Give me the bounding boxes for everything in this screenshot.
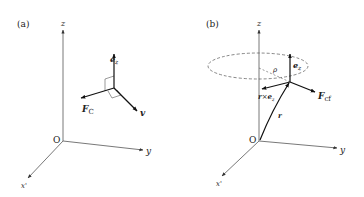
z-axis-label: z <box>256 19 262 28</box>
z-axis-label: z <box>60 19 66 28</box>
rho-label: ρ <box>272 66 278 74</box>
panel-b: (b) z y x' O ρ r ez Fcf r×ez <box>206 19 346 188</box>
fc-label: FC <box>81 104 94 116</box>
ez-label: ez <box>110 54 119 65</box>
right-angle-mark-fc-v <box>108 90 121 98</box>
x-axis <box>28 141 63 178</box>
y-axis <box>63 141 143 150</box>
vector-fcf <box>290 82 315 92</box>
y-axis <box>259 141 337 148</box>
panel-b-label: (b) <box>206 19 219 29</box>
origin-label: O <box>249 135 256 145</box>
diagram-canvas: (a) z y x' O ez FC v (b) z y x' O ρ <box>0 0 364 197</box>
v-label: v <box>140 108 146 118</box>
ez-label: ez <box>293 60 302 71</box>
panel-a: (a) z y x' O ez FC v <box>17 19 152 190</box>
vector-v <box>114 88 137 111</box>
fcf-label: Fcf <box>317 91 332 103</box>
panel-a-label: (a) <box>17 19 29 29</box>
y-axis-label: y <box>339 145 346 155</box>
x-axis-label: x' <box>21 182 27 190</box>
r-label: r <box>278 111 283 120</box>
vector-r <box>260 83 289 140</box>
x-axis <box>222 141 259 176</box>
x-axis-label: x' <box>216 180 222 188</box>
y-axis-label: y <box>145 146 152 156</box>
r-cross-ez-label: r×ez <box>258 92 275 102</box>
origin-label: O <box>53 135 60 145</box>
